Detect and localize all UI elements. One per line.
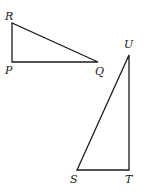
triangle-pqr: R P Q	[4, 10, 104, 78]
vertex-label-q: Q	[95, 65, 104, 78]
geometry-diagram: R P Q U T S	[0, 0, 146, 192]
vertex-label-p: P	[4, 64, 13, 77]
vertex-label-u: U	[124, 38, 134, 51]
vertex-label-t: T	[125, 173, 134, 186]
vertex-label-s: S	[70, 173, 78, 186]
triangle-pqr-shape	[12, 23, 98, 62]
triangle-stu: U T S	[70, 38, 134, 186]
vertex-label-r: R	[4, 10, 13, 23]
